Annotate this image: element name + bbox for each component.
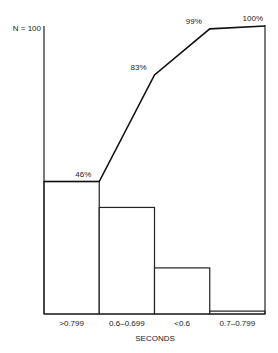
cumulative-label: 99% — [186, 17, 202, 26]
bar — [155, 268, 210, 314]
category-labels: >0.7990.6–0.699<0.60.7–0.799 — [59, 319, 255, 328]
category-label: <0.6 — [174, 319, 190, 328]
x-axis-title: SECONDS — [135, 334, 175, 343]
category-label: 0.6–0.699 — [109, 319, 145, 328]
pareto-chart: 46%83%99%100% >0.7990.6–0.699<0.60.7–0.7… — [0, 0, 278, 353]
bars — [44, 182, 265, 314]
cumulative-label: 46% — [75, 170, 91, 179]
n-label: N = 100 — [13, 24, 42, 33]
cumulative-label: 83% — [130, 63, 146, 72]
cumulative-line — [44, 26, 265, 182]
cumulative-label: 100% — [243, 14, 263, 23]
category-label: 0.7–0.799 — [220, 319, 256, 328]
bar — [44, 182, 99, 314]
category-label: >0.799 — [59, 319, 84, 328]
cumulative-labels: 46%83%99%100% — [75, 14, 263, 179]
bar — [99, 207, 154, 314]
